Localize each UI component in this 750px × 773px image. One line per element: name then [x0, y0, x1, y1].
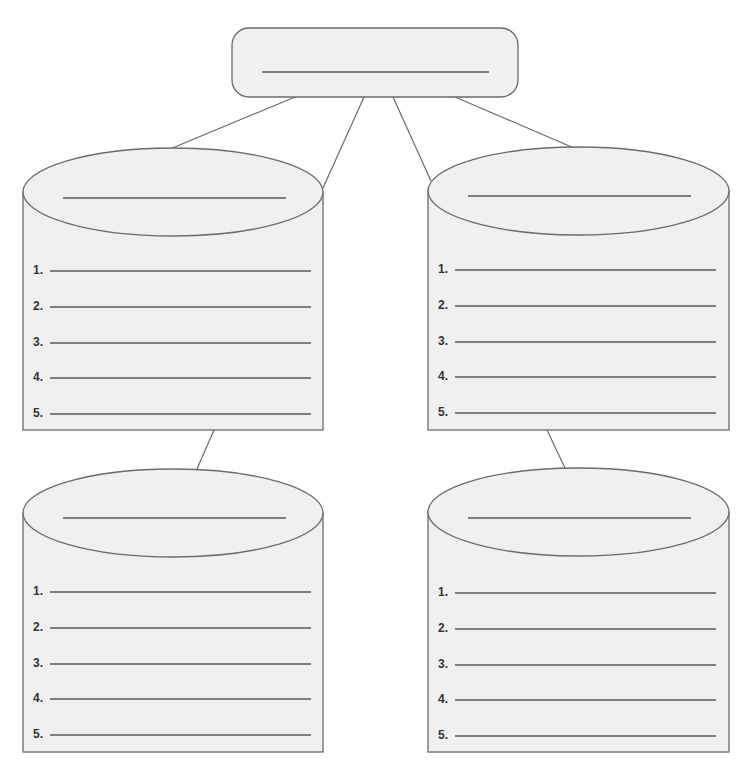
item-number: 2.: [438, 621, 448, 635]
hierarchy-diagram: 1. 2. 3. 4. 5. 1. 2. 3. 4. 5.: [0, 0, 750, 773]
item-number: 1.: [438, 262, 448, 276]
item-number: 4.: [33, 691, 43, 705]
item-number: 5.: [438, 405, 448, 419]
top-box-shape: [232, 28, 518, 97]
connector-top-to-left-inner: [323, 97, 364, 188]
item-number: 3.: [438, 334, 448, 348]
item-number: 1.: [438, 585, 448, 599]
item-number: 4.: [33, 370, 43, 384]
cylinder-top-left: 1. 2. 3. 4. 5.: [23, 148, 323, 430]
connector-top-to-right-outer: [455, 97, 574, 148]
connector-right-to-bottom-right: [547, 430, 565, 468]
connector-top-to-right-inner: [393, 97, 431, 181]
cylinder-lid: [428, 147, 729, 235]
cylinder-lid: [23, 469, 323, 557]
item-number: 3.: [438, 657, 448, 671]
cylinder-bottom-left: 1. 2. 3. 4. 5.: [23, 469, 323, 752]
cylinder-lid: [23, 148, 323, 236]
item-number: 3.: [33, 335, 43, 349]
item-number: 2.: [438, 298, 448, 312]
item-number: 2.: [33, 620, 43, 634]
item-number: 4.: [438, 369, 448, 383]
connector-left-to-bottom-left: [197, 430, 214, 469]
item-number: 5.: [33, 727, 43, 741]
item-number: 5.: [33, 406, 43, 420]
cylinder-bottom-right: 1. 2. 3. 4. 5.: [428, 468, 729, 752]
cylinder-top-right: 1. 2. 3. 4. 5.: [428, 147, 729, 430]
cylinder-lid: [428, 468, 729, 556]
top-box: [232, 28, 518, 97]
item-number: 1.: [33, 584, 43, 598]
item-number: 5.: [438, 728, 448, 742]
connector-top-to-left-outer: [170, 97, 295, 149]
item-number: 1.: [33, 263, 43, 277]
item-number: 3.: [33, 656, 43, 670]
item-number: 4.: [438, 692, 448, 706]
item-number: 2.: [33, 299, 43, 313]
